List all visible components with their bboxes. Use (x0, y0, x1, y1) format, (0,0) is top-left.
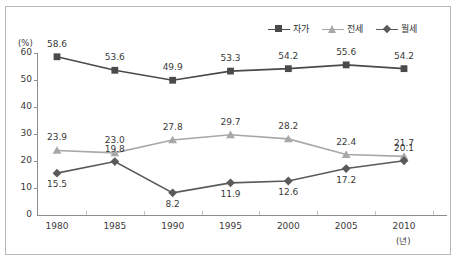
data-point-label: 12.6 (271, 187, 305, 197)
data-point-marker (168, 188, 177, 197)
data-point-label: 53.6 (98, 52, 132, 62)
data-point-label: 54.2 (271, 51, 305, 61)
data-point-label: 27.8 (156, 122, 190, 132)
data-point-label: 53.3 (214, 53, 248, 63)
data-point-marker (285, 65, 292, 72)
data-point-label: 20.1 (387, 143, 421, 153)
data-point-marker (111, 67, 118, 74)
chart-container: 자가 전세 월세 (%) 0102030405060 1980198519901… (0, 0, 457, 267)
data-point-label: 23.9 (40, 132, 74, 142)
data-point-label: 54.2 (387, 51, 421, 61)
data-point-marker (227, 68, 234, 75)
data-point-label: 55.6 (329, 47, 363, 57)
data-point-marker (110, 157, 119, 166)
data-point-marker (342, 164, 351, 173)
data-point-label: 19.8 (98, 144, 132, 154)
data-point-marker (169, 77, 176, 84)
data-point-marker (401, 65, 408, 72)
data-point-marker (226, 178, 235, 187)
data-point-label: 15.5 (40, 179, 74, 189)
data-point-label: 58.6 (40, 39, 74, 49)
data-point-label: 28.2 (271, 121, 305, 131)
x-axis-unit-label: (년) (396, 234, 411, 246)
data-point-label: 22.4 (329, 137, 363, 147)
data-point-label: 29.7 (214, 117, 248, 127)
data-point-marker (54, 53, 61, 60)
data-point-marker (53, 169, 62, 178)
data-point-marker (284, 177, 293, 186)
data-point-label: 49.9 (156, 62, 190, 72)
data-point-label: 8.2 (156, 199, 190, 209)
data-point-label: 11.9 (214, 189, 248, 199)
data-point-marker (343, 61, 350, 68)
data-point-label: 17.2 (329, 175, 363, 185)
